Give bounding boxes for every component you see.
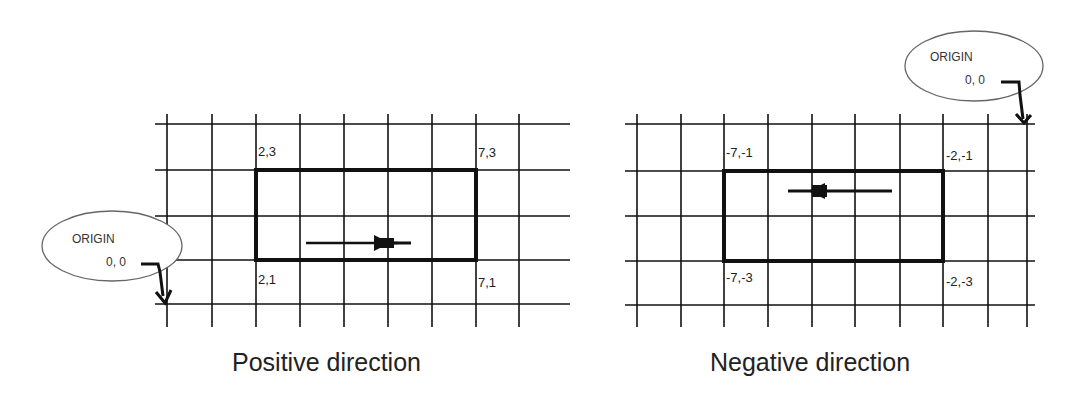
- origin-coords: 0, 0: [965, 73, 985, 87]
- origin-callout-positive: ORIGIN 0, 0: [42, 211, 182, 303]
- corner-label-bottom-right: -2,-3: [946, 274, 973, 289]
- positive-grid: [155, 114, 570, 327]
- coordinate-diagram: 2,3 7,3 2,1 7,1 ORIGIN 0, 0 Positive dir…: [0, 0, 1073, 406]
- corner-label-bottom-left: -7,-3: [726, 270, 753, 285]
- corner-label-top-right: 7,3: [478, 145, 496, 160]
- left-arrow-icon: [788, 183, 892, 199]
- origin-callout-negative: ORIGIN 0, 0: [905, 31, 1043, 123]
- origin-title: ORIGIN: [72, 232, 115, 246]
- negative-grid: [625, 114, 1035, 327]
- positive-caption: Positive direction: [232, 348, 421, 376]
- positive-rectangle: [256, 170, 476, 260]
- corner-label-bottom-left: 2,1: [258, 272, 276, 287]
- right-arrow-icon: [306, 235, 411, 251]
- corner-label-bottom-right: 7,1: [478, 275, 496, 290]
- origin-coords: 0, 0: [106, 255, 126, 269]
- origin-title: ORIGIN: [930, 50, 973, 64]
- corner-label-top-right: -2,-1: [946, 148, 973, 163]
- corner-label-top-left: -7,-1: [726, 145, 753, 160]
- corner-label-top-left: 2,3: [258, 144, 276, 159]
- negative-caption: Negative direction: [710, 348, 910, 376]
